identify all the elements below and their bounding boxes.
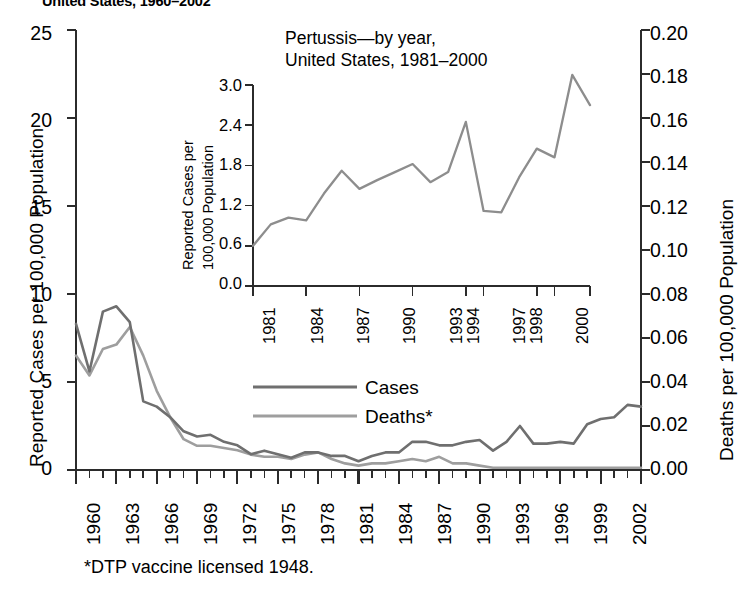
- series-line-cases: [76, 306, 641, 461]
- main-right-tickmarks: [641, 30, 650, 470]
- inset-axes: [245, 85, 590, 296]
- series-line-deaths: [76, 327, 641, 468]
- legend-swatches: [253, 387, 357, 416]
- inset-series-line: [253, 75, 590, 246]
- chart-canvas: [0, 0, 742, 590]
- main-x-tickmarks: [76, 470, 641, 484]
- figure-root: United States, 1960–2002 Reported Cases …: [0, 0, 742, 590]
- inset-series-group: [253, 75, 590, 246]
- inset-left-tickmarks: [245, 85, 253, 286]
- main-left-tickmarks: [67, 30, 76, 470]
- main-axes: [67, 30, 650, 484]
- inset-x-tickmarks: [253, 286, 590, 296]
- main-series-group: [76, 306, 641, 467]
